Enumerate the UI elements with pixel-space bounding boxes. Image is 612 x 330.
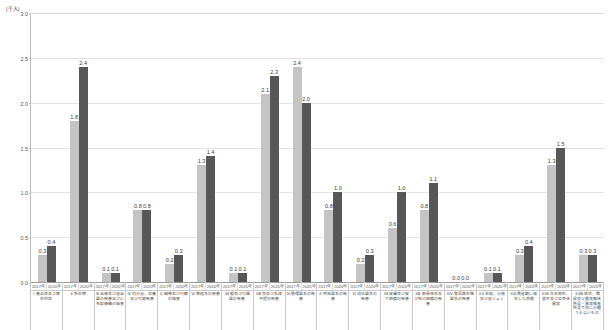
bar-value-label: 0.1 bbox=[238, 266, 246, 272]
x-axis-category-label: ⅩⅦ 先天奇形，変形及び染色体異常 bbox=[540, 291, 571, 330]
bar-value-label: 0.4 bbox=[525, 239, 533, 245]
y-axis-tick-label: 2.5 bbox=[21, 56, 29, 62]
bar-2020年[interactable]: 0.1 bbox=[238, 273, 247, 282]
bar-group: 0.20.3 bbox=[349, 13, 381, 282]
bar-slot: 0.3 bbox=[174, 13, 183, 282]
x-axis-year-label: 2017年 bbox=[572, 282, 587, 290]
bar-value-label: 0.1 bbox=[484, 266, 492, 272]
bar-group: 2.42.0 bbox=[286, 13, 318, 282]
bar-2020年[interactable]: 1.0 bbox=[397, 192, 406, 282]
bar-slot: 1.0 bbox=[397, 13, 406, 282]
y-axis-tick-label: 1.0 bbox=[21, 190, 29, 196]
x-axis-year-row: 2017年2020年 bbox=[477, 282, 508, 291]
bar-slot: 0.8 bbox=[420, 13, 429, 282]
bar-2020年[interactable]: 1.0 bbox=[333, 192, 342, 282]
bar-group: 0.81.0 bbox=[317, 13, 349, 282]
bar-2017年[interactable]: 0.2 bbox=[165, 264, 174, 282]
bar-2017年[interactable]: 0.1 bbox=[484, 273, 493, 282]
bar-2017年[interactable]: 0.3 bbox=[579, 255, 588, 282]
bar-2017年[interactable]: 1.3 bbox=[197, 165, 206, 282]
bar-2020年[interactable]: 2.0 bbox=[302, 103, 311, 282]
y-axis-unit-label: (千人) bbox=[6, 5, 19, 12]
bar-2017年[interactable]: 0.8 bbox=[324, 210, 333, 282]
bar-2017年[interactable]: 0.6 bbox=[388, 228, 397, 282]
x-axis-category-label: ⅩⅧ 症状，徴候及び異常臨床所見・異常検査所見で他に分類されないもの bbox=[572, 291, 603, 330]
bar-value-label: 1.4 bbox=[207, 149, 215, 155]
bar-slot: 0.8 bbox=[142, 13, 151, 282]
bar-2017年[interactable]: 1.8 bbox=[70, 121, 79, 282]
x-axis-category-label: Ⅱ 新生物 bbox=[63, 291, 94, 330]
x-axis-category-label: ⅩⅠ 消化器系の疾患 bbox=[349, 291, 380, 330]
bar-2020年[interactable]: 2.4 bbox=[79, 67, 88, 282]
bar-slot: 1.3 bbox=[547, 13, 556, 282]
bar-2020年[interactable]: 0.3 bbox=[174, 255, 183, 282]
x-axis-year-label: 2017年 bbox=[508, 282, 523, 290]
bar-2020年[interactable]: 0.4 bbox=[524, 246, 533, 282]
bar-2020年[interactable]: 0.1 bbox=[111, 273, 120, 282]
bar-2017年[interactable]: 0.2 bbox=[356, 264, 365, 282]
x-axis-year-label: 2020年 bbox=[460, 282, 476, 290]
x-axis-category-label: Ⅳ 内分泌，栄養及び代謝疾患 bbox=[126, 291, 157, 330]
x-axis-year-row: 2017年2020年 bbox=[222, 282, 253, 291]
x-axis-year-row: 2017年2020年 bbox=[286, 282, 317, 291]
bar-slot: 0.6 bbox=[388, 13, 397, 282]
bar-2017年[interactable]: 0.3 bbox=[38, 255, 47, 282]
bar-2017年[interactable]: 0.8 bbox=[133, 210, 142, 282]
x-axis-year-label: 2017年 bbox=[158, 282, 173, 290]
x-axis-year-label: 2020年 bbox=[555, 282, 571, 290]
x-axis-year-row: 2017年2020年 bbox=[63, 282, 94, 291]
bar-slot: 1.4 bbox=[206, 13, 215, 282]
x-axis-group: 2017年2020年ⅩⅡ 皮膚及び皮下組織の疾患 bbox=[380, 282, 412, 330]
bar-group: 0.30.3 bbox=[572, 13, 604, 282]
bar-group: 0.10.1 bbox=[95, 13, 127, 282]
bar-chart: (千人) 3.02.52.01.51.00.50.0 0.30.41.82.40… bbox=[0, 0, 612, 330]
bar-2020年[interactable]: 0.8 bbox=[142, 210, 151, 282]
bar-2017年[interactable]: 0.1 bbox=[229, 273, 238, 282]
x-axis-group: 2017年2020年Ⅲ 血液及び造血器の疾患並びに免疫機構の障害 bbox=[94, 282, 126, 330]
bar-2020年[interactable]: 0.3 bbox=[365, 255, 374, 282]
x-axis-group: 2017年2020年ⅩⅦ 先天奇形，変形及び染色体異常 bbox=[539, 282, 571, 330]
bar-2020年[interactable]: 1.5 bbox=[556, 148, 565, 283]
x-axis-category-label: Ⅴ 精神及び行動の障害 bbox=[158, 291, 189, 330]
bar-2020年[interactable]: 1.1 bbox=[429, 183, 438, 282]
x-axis-category-label: Ⅲ 血液及び造血器の疾患並びに免疫機構の障害 bbox=[95, 291, 126, 330]
bar-value-label: 0.4 bbox=[48, 239, 56, 245]
bar-2020年[interactable]: 1.4 bbox=[206, 156, 215, 282]
x-axis-group: 2017年2020年ⅩⅥ 周産期に発生した病態 bbox=[507, 282, 539, 330]
bar-value-label: 0.3 bbox=[580, 248, 588, 254]
x-axis-year-row: 2017年2020年 bbox=[540, 282, 571, 291]
bar-2017年[interactable]: 2.4 bbox=[293, 67, 302, 282]
bar-2020年[interactable]: 0.3 bbox=[588, 255, 597, 282]
x-axis-year-label: 2017年 bbox=[445, 282, 460, 290]
bar-slot: 1.5 bbox=[556, 13, 565, 282]
bar-2020年[interactable]: 0.1 bbox=[493, 273, 502, 282]
bar-value-label: 0.8 bbox=[143, 203, 151, 209]
bar-slot: 2.4 bbox=[79, 13, 88, 282]
bar-value-label: 0.1 bbox=[229, 266, 237, 272]
bar-2020年[interactable]: 2.3 bbox=[270, 76, 279, 282]
bar-2017年[interactable]: 1.3 bbox=[547, 165, 556, 282]
bar-value-label: 1.8 bbox=[70, 114, 78, 120]
bar-slot: 0.1 bbox=[229, 13, 238, 282]
bar-2017年[interactable]: 0.3 bbox=[515, 255, 524, 282]
bar-value-label: 1.5 bbox=[557, 141, 565, 147]
x-axis-category-label: ⅩⅣ 腎尿路生殖器系の疾患 bbox=[445, 291, 476, 330]
bar-slot: 0.3 bbox=[579, 13, 588, 282]
x-axis-year-label: 2020年 bbox=[141, 282, 157, 290]
x-axis-year-label: 2017年 bbox=[126, 282, 141, 290]
bar-2017年[interactable]: 2.1 bbox=[261, 94, 270, 282]
bar-value-label: 0.1 bbox=[111, 266, 119, 272]
bar-value-label: 0.3 bbox=[39, 248, 47, 254]
bar-2017年[interactable]: 0.1 bbox=[102, 273, 111, 282]
bar-value-label: 1.0 bbox=[334, 185, 342, 191]
bar-slot: 0.3 bbox=[365, 13, 374, 282]
bar-group: 0.30.4 bbox=[508, 13, 540, 282]
bar-slot: 0.1 bbox=[493, 13, 502, 282]
bar-slot: 0.0 bbox=[461, 13, 470, 282]
bar-2020年[interactable]: 0.4 bbox=[47, 246, 56, 282]
bar-value-label: 1.3 bbox=[548, 158, 556, 164]
x-axis-year-label: 2017年 bbox=[222, 282, 237, 290]
x-axis-year-row: 2017年2020年 bbox=[254, 282, 285, 291]
bar-2017年[interactable]: 0.8 bbox=[420, 210, 429, 282]
bar-slot: 0.0 bbox=[452, 13, 461, 282]
